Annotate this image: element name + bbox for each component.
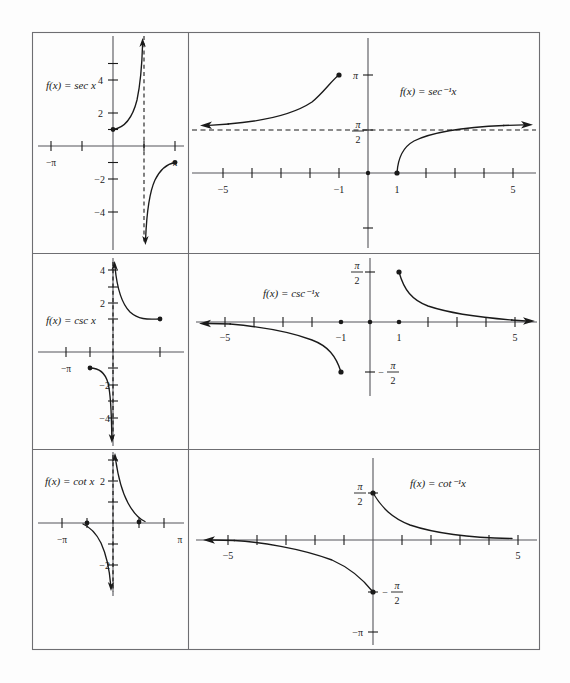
- cot-function-label: f(x) = cot x: [45, 475, 94, 488]
- sec-yticklabel-neg-4: −4: [94, 207, 105, 218]
- cot-endpoint-halfpi-0: [137, 520, 142, 525]
- arccot-endpoint-0-halfpi: [370, 490, 375, 495]
- arccsc-endpoint-neg1-neghalfpi: [338, 369, 343, 374]
- arcsec-endpoint-neg1-pi: [336, 72, 341, 77]
- sec-yticklabel-4: 4: [98, 75, 103, 86]
- arccsc-origin-dot: [368, 320, 373, 325]
- figure-svg: −π π 4 2 −2 −4 f(x) = sec x: [0, 0, 570, 683]
- arccot-endpoint-0-neghalfpi: [370, 589, 375, 594]
- arcsec-function-label: f(x) = sec⁻¹x: [400, 85, 457, 98]
- cot-xticklabel-pi: π: [178, 535, 183, 545]
- arccot-xticklabel-neg5: −5: [223, 550, 234, 561]
- csc-yticklabel-4: 4: [100, 265, 105, 276]
- arccsc-neg-sign: −: [378, 367, 384, 378]
- arcsec-xticklabel-5: 5: [511, 184, 516, 195]
- arccot-half-pi-denominator: 2: [358, 496, 363, 507]
- sec-yticklabel-2: 2: [98, 108, 103, 119]
- csc-yticklabel-2: 2: [100, 298, 105, 309]
- csc-yticklabel-neg-4: −4: [99, 413, 110, 424]
- csc-endpoint-halfpi-1: [158, 317, 163, 322]
- arccsc-xticklabel-neg1: −1: [336, 332, 347, 343]
- sec-yticklabel-neg-2: −2: [94, 174, 105, 185]
- arcsec-half-pi-denominator: 2: [356, 134, 361, 145]
- sec-xticklabel-neg-pi: −π: [46, 158, 56, 168]
- arccsc-axis-dot-1: [397, 320, 402, 325]
- csc-endpoint-neghalfpi-neg1: [88, 366, 93, 371]
- arccot-neg-half-pi-denominator: 2: [395, 595, 400, 606]
- csc-xticklabel-neg-pi: −π: [61, 364, 71, 374]
- arccsc-xticklabel-5: 5: [513, 332, 518, 343]
- sec-endpoint-0-1: [111, 127, 116, 132]
- cot-endpoint-neghalfpi-0: [85, 521, 90, 526]
- arccsc-function-label: f(x) = csc⁻¹x: [263, 287, 320, 300]
- cot-xticklabel-neg-pi: −π: [57, 535, 67, 545]
- arcsec-endpoint-1-0: [394, 170, 399, 175]
- arccot-function-label: f(x) = cot⁻¹x: [410, 477, 466, 490]
- arcsec-xticklabel-neg1: −1: [334, 184, 345, 195]
- arccot-yticklabel-neg-pi: −π: [352, 627, 363, 638]
- csc-function-label: f(x) = csc x: [46, 314, 96, 327]
- arccot-curve-left-tail: [212, 540, 235, 541]
- arccsc-neg-half-pi-denominator: 2: [391, 375, 396, 386]
- cot-yticklabel-2: 2: [100, 476, 105, 487]
- page-background: [0, 0, 570, 683]
- arcsec-origin-dot: [366, 171, 370, 175]
- arcsec-xticklabel-1: 1: [395, 184, 400, 195]
- arccsc-curve-left-tail: [208, 324, 231, 325]
- arcsec-xticklabel-neg5: −5: [218, 184, 229, 195]
- arccot-xticklabel-5: 5: [516, 550, 521, 561]
- trig-inverse-function-graph-figure: −π π 4 2 −2 −4 f(x) = sec x: [0, 0, 570, 683]
- arccsc-xticklabel-1: 1: [397, 332, 402, 343]
- arccsc-half-pi-denominator: 2: [355, 275, 360, 286]
- arccsc-endpoint-1-halfpi: [396, 269, 401, 274]
- arccsc-axis-dot-neg1: [339, 320, 344, 325]
- arccot-neg-sign: −: [382, 587, 388, 598]
- arccsc-xticklabel-neg5: −5: [220, 332, 231, 343]
- sec-function-label: f(x) = sec x: [46, 79, 96, 92]
- arcsec-curve-right-tail: [503, 125, 524, 126]
- sec-endpoint-pi-neg1: [173, 160, 178, 165]
